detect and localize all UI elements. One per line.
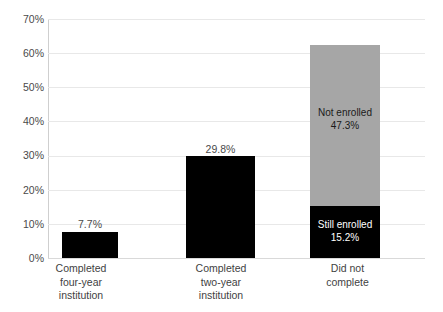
- x-label-line-2: complete: [300, 276, 395, 290]
- x-label-line-2: four-year: [36, 276, 126, 290]
- bar-completed-two-year: 29.8%: [186, 156, 255, 258]
- y-tick-label-50: 50%: [4, 82, 44, 92]
- bar-did-not-complete: Still enrolled 15.2% Not enrolled 47.3%: [310, 45, 380, 259]
- y-tick-label-60: 60%: [4, 48, 44, 58]
- x-axis-label-did-not-complete: Did not complete: [300, 262, 395, 289]
- bar-segment-still-enrolled: Still enrolled 15.2%: [310, 206, 380, 258]
- bar-completed-four-year: 7.7%: [62, 232, 118, 258]
- y-tick-label-10: 10%: [4, 219, 44, 229]
- y-axis-tick-labels: 70% 60% 50% 40% 30% 20% 10% 0%: [0, 19, 44, 258]
- bar-chart: 70% 60% 50% 40% 30% 20% 10% 0% 7.7% 29.8…: [0, 0, 443, 312]
- gridline-70: [48, 19, 425, 20]
- x-label-line-1: Completed: [176, 262, 266, 276]
- segment-value-still-enrolled: 15.2%: [310, 232, 380, 245]
- gridline-0-baseline: [48, 258, 425, 259]
- bar-value-label-completed-four-year: 7.7%: [42, 219, 138, 230]
- x-label-line-1: Did not: [300, 262, 395, 276]
- x-axis-label-completed-four-year: Completed four-year institution: [36, 262, 126, 303]
- y-tick-label-30: 30%: [4, 150, 44, 160]
- bar-value-label-completed-two-year: 29.8%: [166, 144, 275, 155]
- x-label-line-3: institution: [176, 289, 266, 303]
- segment-value-not-enrolled: 47.3%: [310, 120, 380, 133]
- x-label-line-3: institution: [36, 289, 126, 303]
- bar-segment-completed-four-year: [62, 232, 118, 258]
- x-label-line-1: Completed: [36, 262, 126, 276]
- y-tick-label-70: 70%: [4, 14, 44, 24]
- bar-segment-not-enrolled: Not enrolled 47.3%: [310, 45, 380, 207]
- x-axis-label-completed-two-year: Completed two-year institution: [176, 262, 266, 303]
- segment-label-not-enrolled: Not enrolled: [310, 107, 380, 120]
- plot-area: 7.7% 29.8% Still enrolled 15.2% Not enro…: [48, 19, 425, 258]
- y-tick-label-40: 40%: [4, 116, 44, 126]
- bar-segment-completed-two-year: [186, 156, 255, 258]
- segment-label-still-enrolled: Still enrolled: [310, 219, 380, 232]
- y-tick-label-20: 20%: [4, 185, 44, 195]
- x-label-line-2: two-year: [176, 276, 266, 290]
